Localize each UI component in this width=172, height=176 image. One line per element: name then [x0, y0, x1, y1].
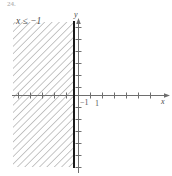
x-axis-tick-label-1: 1	[95, 99, 99, 108]
y-axis-label: y	[74, 10, 78, 19]
x-axis-label: x	[161, 97, 165, 106]
solution-region-shading	[13, 22, 74, 167]
inequality-label: x ≤ −1	[16, 16, 41, 27]
inequality-graph-figure: 24.	[0, 0, 172, 176]
y-axis-tick-label-neg-1: −1	[80, 98, 89, 107]
